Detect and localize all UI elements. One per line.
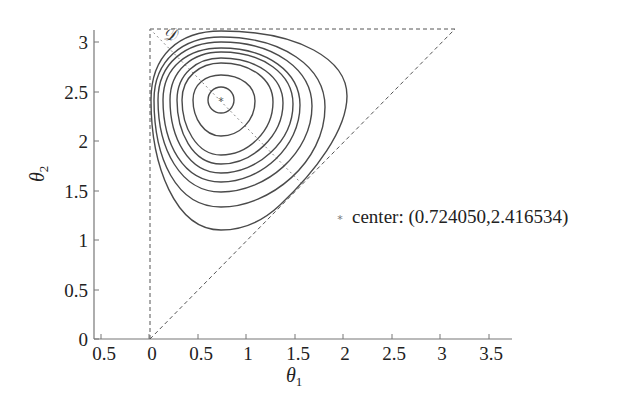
x-tick-label: 3 <box>437 343 447 364</box>
x-axis-label: θ1 <box>286 364 302 389</box>
y-axis-label: θ2 <box>26 166 51 182</box>
y-tick-label: 1.5 <box>64 181 88 202</box>
domain-label: 𝒟 <box>163 24 180 44</box>
x-tick-label: 1 <box>243 343 253 364</box>
center-annotation: * center: (0.724050,2.416534) <box>337 206 568 228</box>
y-tick-label: 0.5 <box>64 280 88 301</box>
x-tick-label: 0.5 <box>92 343 116 364</box>
x-tick-label: 2.5 <box>382 343 406 364</box>
annotation-marker: * <box>337 213 343 226</box>
x-tick-label: 0.5 <box>189 343 213 364</box>
x-tick-label: 0 <box>147 343 157 364</box>
center-marker: * <box>218 95 224 108</box>
contour-plot: 0 0.5 1 1.5 2 2.5 3 0.5 0 0.5 1 1.5 2 2.… <box>0 0 618 402</box>
y-tick-label: 0 <box>79 329 89 350</box>
y-tick-label: 2 <box>79 131 89 152</box>
y-tick-label: 2.5 <box>64 82 88 103</box>
y-tick-label: 1 <box>79 230 89 251</box>
y-tick-label: 3 <box>79 32 89 53</box>
x-tick-label: 2 <box>340 343 350 364</box>
x-tick-label: 1.5 <box>286 343 310 364</box>
x-tick-label: 3.5 <box>479 343 503 364</box>
annotation-text: center: (0.724050,2.416534) <box>352 206 568 228</box>
